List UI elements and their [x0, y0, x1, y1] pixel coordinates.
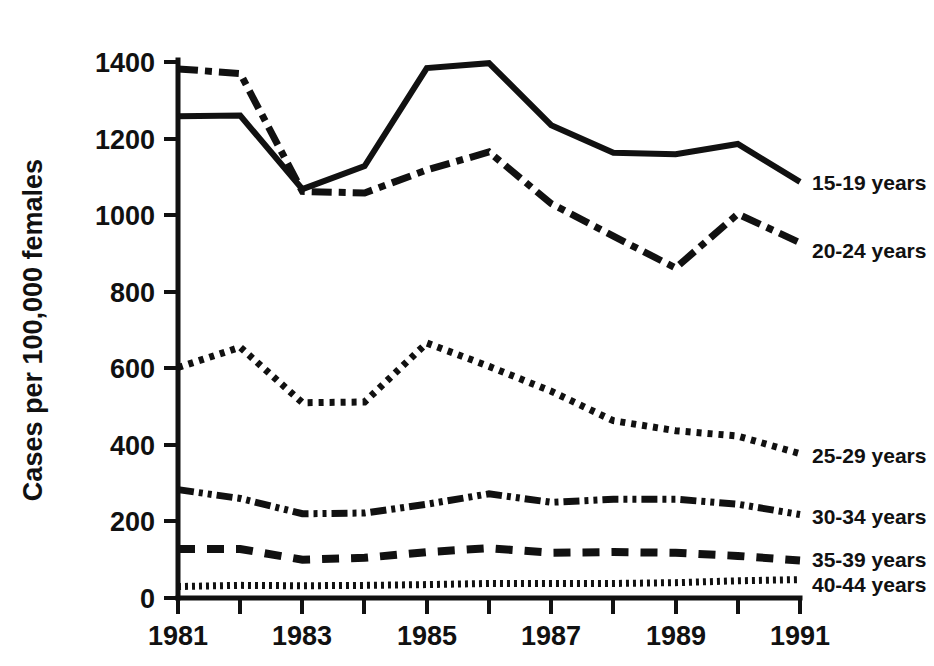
series-label-15-19: 15-19 years	[812, 171, 926, 194]
series-label-30-34: 30-34 years	[812, 505, 926, 528]
x-tick-label-1987: 1987	[521, 621, 581, 651]
chart-background	[0, 0, 934, 666]
y-tick-label-1400: 1400	[95, 48, 155, 78]
y-axis-title: Cases per 100,000 females	[18, 159, 48, 501]
chart-figure: Cases per 100,000 females 0 200 400 600 …	[0, 0, 934, 666]
y-tick-label-800: 800	[110, 278, 155, 308]
series-label-40-44: 40-44 years	[812, 573, 926, 596]
line-chart: Cases per 100,000 females 0 200 400 600 …	[0, 0, 934, 666]
series-label-20-24: 20-24 years	[812, 239, 926, 262]
y-tick-label-600: 600	[110, 354, 155, 384]
x-tick-label-1981: 1981	[148, 621, 208, 651]
x-tick-label-1985: 1985	[397, 621, 457, 651]
y-tick-label-0: 0	[140, 584, 155, 614]
y-tick-label-1200: 1200	[95, 125, 155, 155]
y-tick-label-1000: 1000	[95, 201, 155, 231]
series-label-25-29: 25-29 years	[812, 444, 926, 467]
x-tick-label-1991: 1991	[770, 621, 830, 651]
y-tick-label-200: 200	[110, 507, 155, 537]
y-tick-label-400: 400	[110, 431, 155, 461]
series-label-35-39: 35-39 years	[812, 548, 926, 571]
x-tick-label-1983: 1983	[272, 621, 332, 651]
x-tick-label-1989: 1989	[646, 621, 706, 651]
